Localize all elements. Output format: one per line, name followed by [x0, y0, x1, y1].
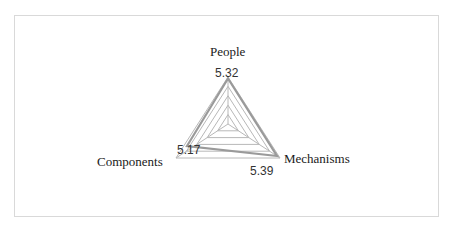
- value-label-people: 5.32: [215, 66, 239, 80]
- axis-label-mechanisms: Mechanisms: [284, 151, 350, 166]
- axis-label-components: Components: [97, 154, 163, 169]
- value-label-mechanisms: 5.39: [250, 164, 274, 178]
- axis-label-people: People: [210, 44, 246, 59]
- radar-chart: People Mechanisms Components 5.32 5.39 5…: [0, 0, 455, 231]
- value-label-components: 5.17: [177, 143, 201, 157]
